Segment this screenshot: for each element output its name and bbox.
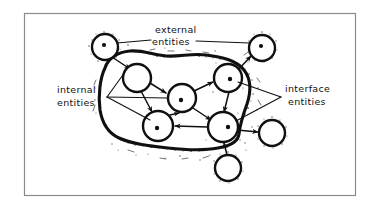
node-iface-lower (208, 112, 238, 142)
node-ext-top-left (92, 34, 118, 60)
node-ext-bottom (215, 155, 241, 181)
label-internal-line1: internal (57, 84, 96, 95)
node-int-upper-left (123, 64, 151, 92)
node-iface-upper (214, 64, 242, 92)
node-int-lower-left (143, 111, 173, 141)
diagram-canvas: external entities internal entities inte… (0, 0, 375, 210)
edge-iface-lower-to-lowerleft (175, 126, 208, 127)
label-internal-line2: entities (57, 97, 95, 108)
node-ext-top-right (249, 35, 275, 61)
label-interface-line2: entities (288, 96, 326, 107)
diagram-figure: external entities internal entities inte… (0, 0, 375, 210)
label-external-line1: external (155, 24, 197, 35)
label-external-line2: entities (152, 36, 190, 47)
node-int-center (168, 84, 196, 112)
node-ext-right (259, 120, 285, 146)
label-interface-line1: interface (285, 83, 330, 94)
